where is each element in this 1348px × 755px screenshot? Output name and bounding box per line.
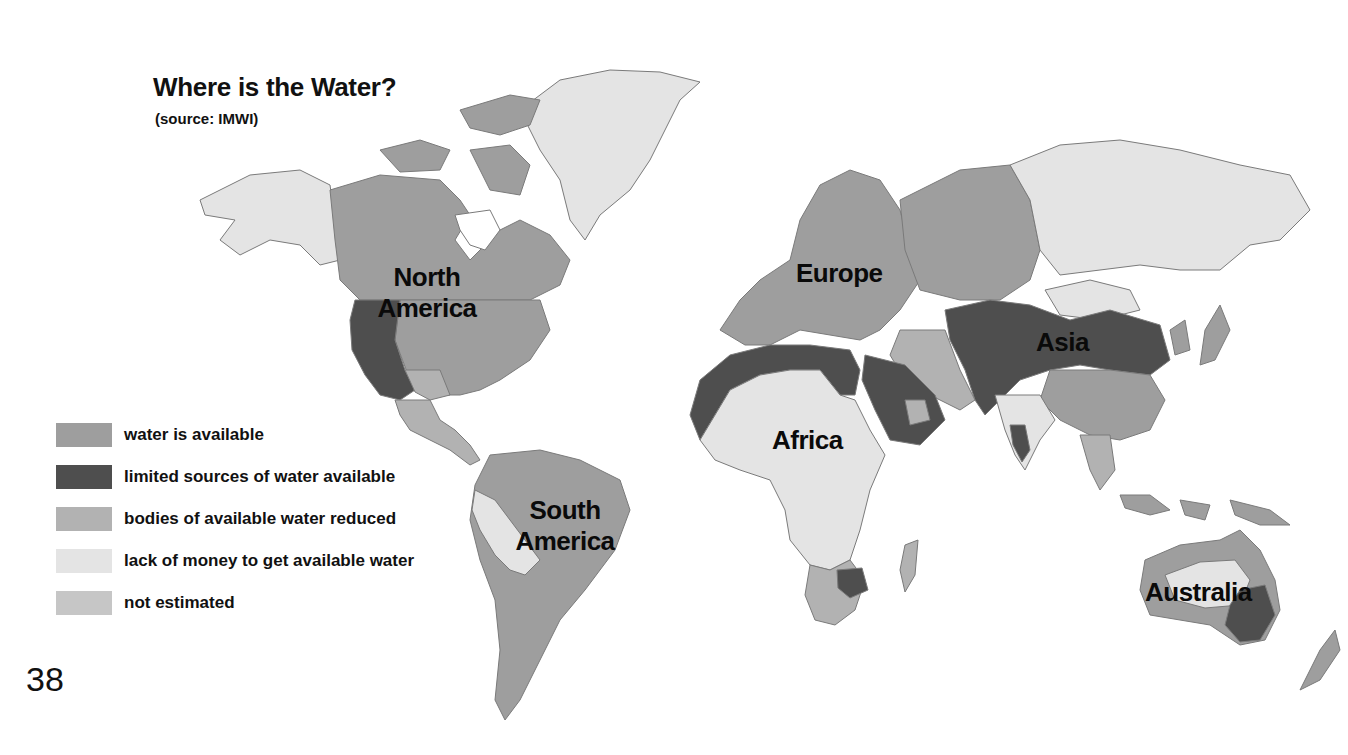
source-note: (source: IMWI) (155, 110, 258, 127)
region-madagascar (900, 540, 918, 592)
region-indonesia (1120, 495, 1290, 525)
legend-label: water is available (124, 425, 264, 445)
legend-item-not-estimated: not estimated (56, 592, 414, 613)
region-siberia (1010, 140, 1310, 275)
label-asia: Asia (1036, 327, 1089, 358)
page-number: 38 (26, 660, 64, 699)
legend-swatch (56, 507, 112, 531)
legend-swatch (56, 423, 112, 447)
region-south-america (470, 450, 630, 720)
map-legend: water is available limited sources of wa… (56, 424, 414, 634)
legend-label: lack of money to get available water (124, 551, 414, 571)
legend-swatch (56, 549, 112, 573)
legend-label: bodies of available water reduced (124, 509, 396, 529)
legend-swatch (56, 591, 112, 615)
label-south-america: South America (505, 495, 625, 557)
legend-item-lack-of-money: lack of money to get available water (56, 550, 414, 571)
label-africa: Africa (772, 425, 843, 456)
legend-label: not estimated (124, 593, 235, 613)
label-australia: Australia (1145, 577, 1252, 608)
region-new-zealand (1300, 630, 1340, 690)
region-southern-china (1040, 370, 1165, 440)
legend-label: limited sources of water available (124, 467, 395, 487)
region-japan (1170, 305, 1230, 365)
legend-item-water-available: water is available (56, 424, 414, 445)
region-western-russia (900, 165, 1040, 300)
legend-swatch (56, 465, 112, 489)
page-title: Where is the Water? (153, 72, 396, 103)
region-alaska (200, 170, 340, 265)
region-se-asia (1080, 435, 1115, 490)
region-greenland (520, 70, 700, 240)
region-africa (700, 370, 885, 570)
label-europe: Europe (796, 258, 883, 289)
label-north-america: North America (372, 262, 482, 324)
region-arabia-east (905, 400, 930, 425)
legend-item-bodies-reduced: bodies of available water reduced (56, 508, 414, 529)
legend-item-limited-sources: limited sources of water available (56, 466, 414, 487)
